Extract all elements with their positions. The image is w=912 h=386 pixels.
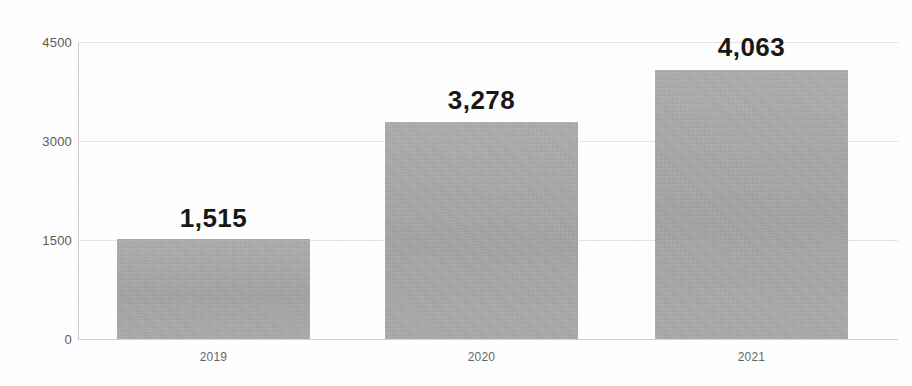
- y-axis-tick-0: 0: [2, 332, 72, 347]
- value-label-2020: 3,278: [385, 85, 578, 116]
- x-axis-label-2020: 2020: [385, 350, 578, 364]
- y-axis-tick-1500: 1500: [2, 233, 72, 248]
- x-axis-label-2021: 2021: [655, 350, 848, 364]
- bar-2019[interactable]: [117, 239, 310, 339]
- bar-texture-2019: [117, 239, 310, 339]
- x-axis-line: [78, 339, 898, 340]
- value-label-2021: 4,063: [655, 32, 848, 63]
- y-axis-tick-3000: 3000: [2, 134, 72, 149]
- y-axis-tick-labels: 4500 3000 1500 0: [0, 0, 72, 386]
- bar-2021[interactable]: [655, 70, 848, 339]
- bar-chart: 4500 3000 1500 0 1,515 3,278 4,063 2019 …: [0, 0, 912, 386]
- bar-2020[interactable]: [385, 122, 578, 339]
- bar-texture-2021: [655, 70, 848, 339]
- value-label-2019: 1,515: [117, 203, 310, 234]
- bar-texture-2020: [385, 122, 578, 339]
- y-axis-tick-4500: 4500: [2, 35, 72, 50]
- x-axis-label-2019: 2019: [117, 350, 310, 364]
